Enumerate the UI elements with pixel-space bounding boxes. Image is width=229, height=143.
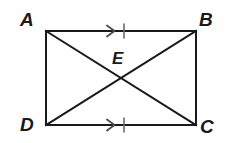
vertex-label-d: D xyxy=(20,115,34,134)
vertex-label-b: B xyxy=(199,10,213,29)
vertex-label-a: A xyxy=(20,10,34,29)
figure-canvas xyxy=(0,0,229,143)
vertex-label-c: C xyxy=(200,117,214,136)
diagonals xyxy=(46,31,196,125)
point-label-e: E xyxy=(112,50,123,67)
geometry-figure: A B C D E xyxy=(0,0,229,143)
